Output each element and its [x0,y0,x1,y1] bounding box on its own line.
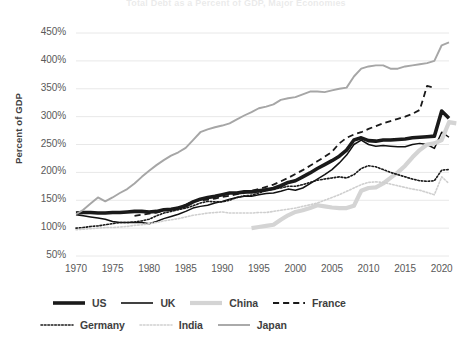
legend-swatch-japan [217,318,251,332]
legend-label: Germany [80,319,125,331]
legend-label: China [229,297,258,309]
legend-label: India [179,319,203,331]
legend-item-france[interactable]: France [272,296,346,310]
legend-row-secondary: GermanyIndiaJapan [0,314,472,336]
legend-swatch-uk [120,296,154,310]
legend-item-uk[interactable]: UK [120,296,175,310]
legend-item-us[interactable]: US [52,296,106,310]
chart-container: Total Debt as a Percent of GDP, Major Ec… [0,0,472,343]
legend-label: France [312,297,346,309]
legend-swatch-germany [40,318,74,332]
legend-label: Japan [257,319,287,331]
legend-swatch-us [52,296,86,310]
legend-item-japan[interactable]: Japan [217,318,287,332]
series-line-us [76,111,449,213]
legend-swatch-france [272,296,306,310]
chart-legend: USUKChinaFrance GermanyIndiaJapan [0,292,472,342]
legend-swatch-india [139,318,173,332]
legend-row-primary: USUKChinaFrance [0,292,472,314]
legend-swatch-china [189,296,223,310]
legend-label: UK [160,297,175,309]
legend-label: US [92,297,106,309]
legend-item-india[interactable]: India [139,318,203,332]
legend-item-germany[interactable]: Germany [40,318,125,332]
legend-item-china[interactable]: China [189,296,258,310]
